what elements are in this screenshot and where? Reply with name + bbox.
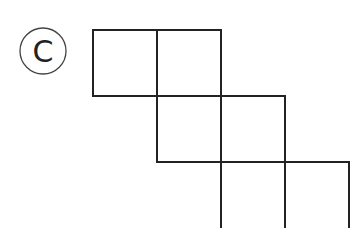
square-grid — [93, 30, 349, 228]
cell-r0-c1 — [157, 30, 221, 96]
cell-r0-c0 — [93, 30, 157, 96]
label-letter: C — [33, 34, 54, 69]
cell-r2-partial — [221, 162, 349, 228]
cell-r1-c1 — [157, 96, 221, 162]
cell-r1-c2 — [221, 96, 285, 162]
option-label-c: C — [20, 28, 66, 74]
diagram-canvas: C — [0, 0, 360, 228]
